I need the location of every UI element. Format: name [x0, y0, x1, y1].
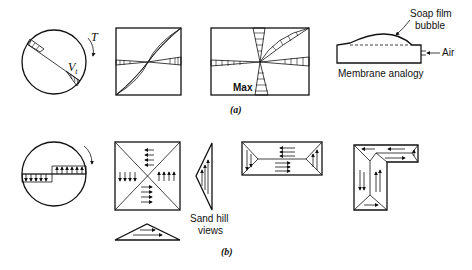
rectangular-section: Max — [211, 28, 309, 95]
square-section — [116, 28, 181, 95]
rectangle-sand-hill — [242, 142, 322, 175]
stress-label: Vt — [68, 60, 78, 76]
sand-hill-label: Sand hill — [190, 213, 228, 224]
air-label: Air — [442, 47, 455, 58]
circular-step-section — [22, 142, 92, 206]
membrane-title: Membrane analogy — [338, 68, 424, 79]
torque-label: T — [91, 30, 99, 44]
square-sand-hill — [115, 142, 180, 210]
sand-hill-side-view: Sand hill views — [190, 143, 228, 236]
caption-a: (a) — [230, 104, 242, 116]
circular-section: T Vt — [22, 30, 99, 94]
max-label: Max — [233, 82, 253, 93]
sand-hill-front-view — [115, 224, 180, 240]
soap-film-label: Soap film — [410, 8, 452, 19]
views-label: views — [198, 225, 223, 236]
torsion-diagram: T Vt Max — [0, 0, 472, 270]
membrane-analogy: Soap film bubble Air Membrane analogy — [337, 8, 455, 79]
caption-b: (b) — [221, 246, 233, 258]
l-shape-sand-hill — [354, 145, 418, 210]
bubble-label: bubble — [415, 20, 445, 31]
